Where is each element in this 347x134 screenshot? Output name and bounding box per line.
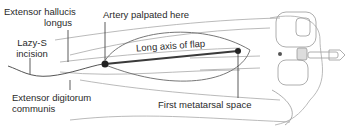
label-ehl-line1: Extensor hallucis xyxy=(4,6,72,17)
label-ehl-line2: longus xyxy=(4,17,72,28)
leader-lines xyxy=(30,22,238,98)
label-first-metatarsal: First metatarsal space xyxy=(158,99,251,110)
label-lazy-line1: Lazy-S xyxy=(10,37,54,48)
label-lazy-line2: incision xyxy=(10,48,54,59)
lazy-s-incision xyxy=(8,64,103,76)
label-edc: Extensor digitorum communis xyxy=(12,92,91,114)
label-edc-line2: communis xyxy=(12,103,91,114)
foot-flap-diagram: Extensor hallucis longus Artery palpated… xyxy=(0,0,347,134)
toe-clamp xyxy=(272,12,345,125)
artery-dot xyxy=(102,61,109,68)
label-lazy-s: Lazy-S incision xyxy=(10,37,54,59)
label-ehl: Extensor hallucis longus xyxy=(4,6,72,28)
label-edc-line1: Extensor digitorum xyxy=(12,92,91,103)
label-artery: Artery palpated here xyxy=(103,9,189,20)
